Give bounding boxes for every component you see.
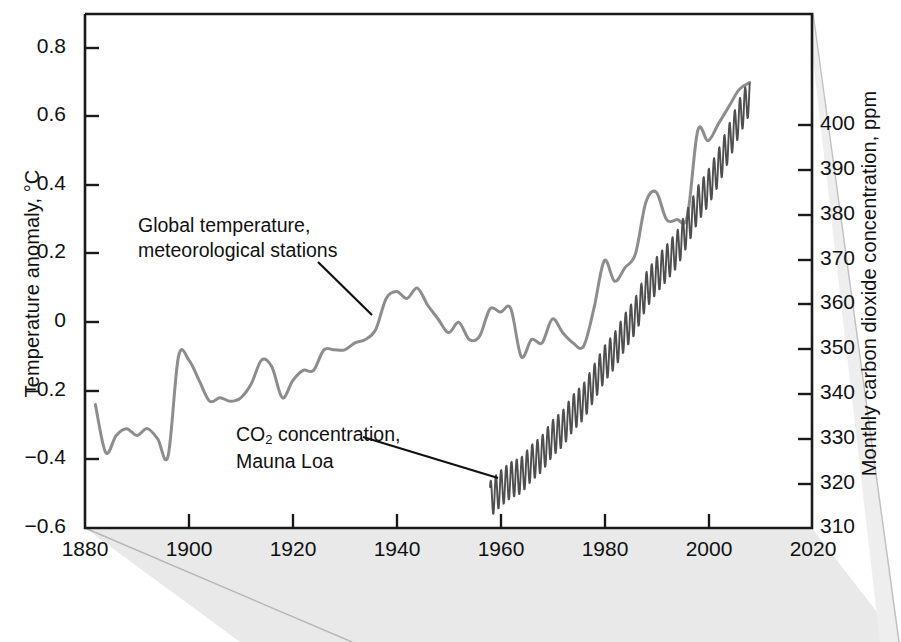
x-tick-label: 1880	[35, 537, 135, 561]
x-tick-label: 1980	[555, 537, 655, 561]
y-left-tick-label: −0.6	[0, 514, 66, 538]
chart-figure: Temperature anomaly, °C Monthly carbon d…	[0, 0, 901, 642]
x-tick-label: 1900	[139, 537, 239, 561]
y-right-tick-label: 400	[820, 111, 855, 135]
y-axis-left-title: Temperature anomaly, °C	[21, 84, 44, 484]
plot-area	[85, 14, 812, 528]
y-right-tick-label: 360	[820, 290, 855, 314]
temperature-annotation: Global temperature, meteorological stati…	[138, 213, 337, 263]
y-right-tick-label: 320	[820, 470, 855, 494]
y-right-tick-label: 380	[820, 201, 855, 225]
x-tick-label: 1920	[243, 537, 343, 561]
y-right-tick-label: 310	[820, 514, 855, 538]
y-left-tick-label: 0	[0, 308, 66, 332]
x-tick-label: 1960	[451, 537, 551, 561]
temperature-annotation-line2: meteorological stations	[138, 238, 337, 263]
y-right-tick-label: 390	[820, 156, 855, 180]
y-left-tick-label: −0.2	[0, 377, 66, 401]
co2-label-pre: CO	[236, 423, 265, 445]
x-tick-label: 2000	[659, 537, 759, 561]
y-right-tick-label: 340	[820, 380, 855, 404]
y-right-tick-label: 330	[820, 425, 855, 449]
y-left-tick-label: 0.6	[0, 102, 66, 126]
x-tick-label: 2020	[763, 537, 863, 561]
co2-label-post: concentration,	[272, 423, 400, 445]
co2-annotation: CO2 concentration, Mauna Loa	[236, 422, 400, 474]
y-left-tick-label: 0.2	[0, 239, 66, 263]
y-left-tick-label: −0.4	[0, 445, 66, 469]
x-tick-label: 1940	[347, 537, 447, 561]
co2-annotation-line1: CO2 concentration,	[236, 422, 400, 449]
y-right-tick-label: 370	[820, 246, 855, 270]
y-left-tick-label: 0.8	[0, 34, 66, 58]
y-right-tick-label: 350	[820, 335, 855, 359]
temperature-annotation-line1: Global temperature,	[138, 213, 337, 238]
y-axis-right-title: Monthly carbon dioxide concentration, pp…	[858, 24, 881, 544]
y-left-tick-label: 0.4	[0, 171, 66, 195]
co2-annotation-line2: Mauna Loa	[236, 449, 400, 474]
